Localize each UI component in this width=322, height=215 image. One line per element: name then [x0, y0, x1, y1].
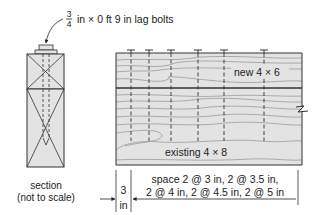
fraction-denominator: 4: [67, 19, 72, 29]
fraction-numerator: 3: [67, 9, 72, 19]
washer: [35, 50, 57, 54]
spacing-note-line2: 2 @ 4 in, 2 @ 4.5 in, 2 @ 5 in: [146, 186, 284, 198]
lag-bolt-detail-diagram: 3 4 in × 0 ft 9 in lag bolts section (no…: [0, 0, 322, 215]
elevation-view: new 4 × 6 existing 4 × 8: [116, 50, 308, 165]
section-view: section (not to scale): [17, 45, 75, 203]
bolt-head: [39, 45, 53, 50]
callout-arrow: [46, 19, 63, 43]
edge-distance-value: 3: [121, 184, 127, 196]
lag-bolt-callout: 3 4 in × 0 ft 9 in lag bolts: [46, 9, 174, 43]
new-member-label: new 4 × 6: [234, 66, 280, 78]
edge-distance-unit: in: [119, 199, 127, 211]
section-caption-line2: (not to scale): [17, 192, 75, 203]
existing-member-label: existing 4 × 8: [165, 146, 227, 158]
spacing-note-line1: space 2 @ 3 in, 2 @ 3.5 in,: [152, 173, 279, 185]
callout-text: in × 0 ft 9 in lag bolts: [77, 13, 174, 25]
section-caption-line1: section: [30, 180, 62, 191]
dimension-lines: 3 in space 2 @ 3 in, 2 @ 3.5 in, 2 @ 4 i…: [100, 170, 298, 212]
